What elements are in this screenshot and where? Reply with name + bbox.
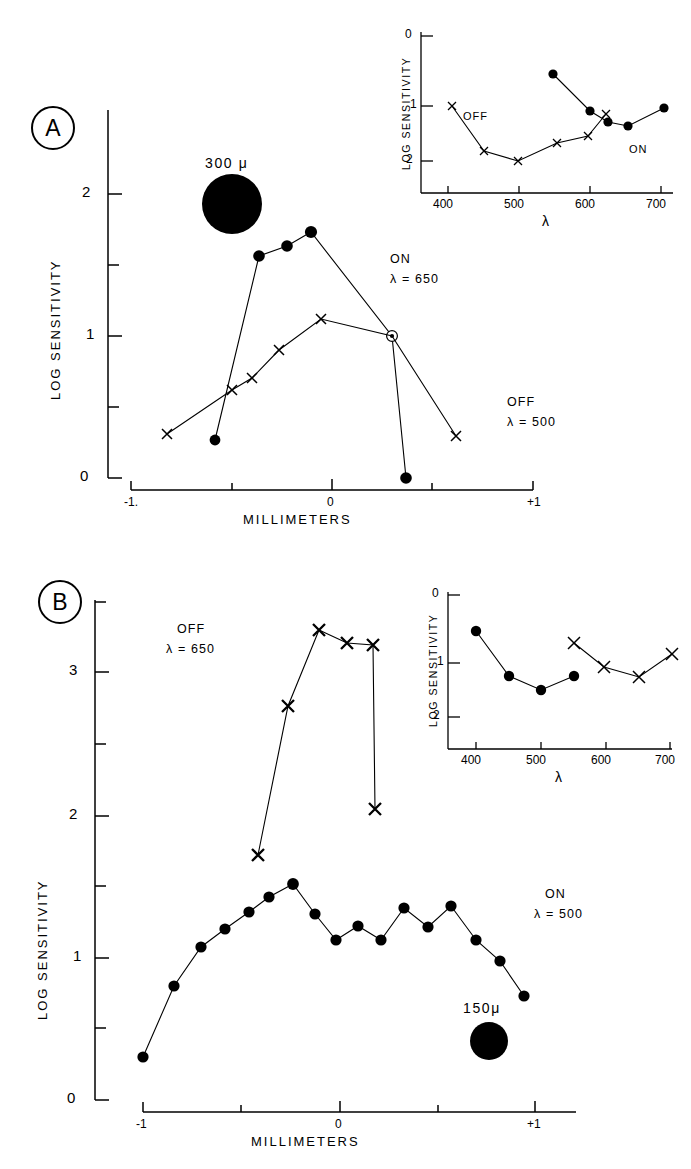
panel-a-inset-xlabel: λ (542, 213, 550, 229)
panel-a-inset-xtick-600: 600 (575, 197, 595, 211)
panel-a-off-label-line2: λ = 500 (507, 415, 556, 429)
panel-b-off-label-line1: OFF (177, 622, 205, 636)
series-on-a-inset (548, 69, 668, 130)
panel-b-xtick-0: 0 (335, 1117, 342, 1131)
panel-b-xtick-pos1: +1 (527, 1117, 541, 1131)
panel-b-inset-xlabel: λ (555, 769, 563, 785)
panel-badge-a: A (31, 106, 75, 150)
panel-a-axes (108, 110, 533, 490)
panel-b-ytick-3: 3 (69, 661, 77, 678)
spot-size-blob-a (202, 174, 262, 234)
figure-root: A 0 1 2 LOG SENSITIVITY -1. 0 +1 MILLIME… (0, 0, 691, 1169)
panel-b-ylabel: LOG SENSITIVITY (35, 879, 50, 1020)
panel-b-inset-xtick-700: 700 (655, 753, 675, 767)
panel-b-xlabel: MILLIMETERS (251, 1134, 360, 1149)
panel-b-on-label-line1: ON (545, 887, 566, 901)
panel-a-inset-xtick-500: 500 (504, 197, 524, 211)
series-x-b-inset (568, 637, 678, 683)
spot-size-blob-b (470, 1022, 508, 1060)
panel-a-inset-on-label: ON (629, 143, 648, 155)
panel-b-inset-axes (448, 592, 672, 749)
panel-b-ytick-2: 2 (69, 805, 77, 822)
panel-a-spot-label: 300 μ (205, 155, 248, 171)
panel-a-on-label-line2: λ = 650 (390, 272, 439, 286)
series-filled-b-inset (471, 626, 579, 695)
panel-a-xlabel: MILLIMETERS (243, 512, 352, 527)
panel-a-xtick-neg1: -1. (124, 495, 138, 509)
panel-a-inset-ylabel: LOG SENSITIVITY (400, 57, 412, 170)
panel-b-spot-label: 150μ (463, 1000, 501, 1016)
panel-a-inset-xtick-400: 400 (433, 197, 453, 211)
panel-a-ytick-0: 0 (80, 467, 88, 484)
panel-a-off-label-line1: OFF (507, 395, 535, 409)
series-on-b (137, 878, 529, 1063)
panel-a-ytick-1: 1 (86, 325, 94, 342)
series-off-a (162, 314, 461, 441)
panel-b-ytick-0: 0 (67, 1089, 75, 1106)
panel-a-xtick-0: 0 (327, 495, 334, 509)
panel-a-inset-axes (421, 32, 673, 193)
panel-b-off-label-line2: λ = 650 (166, 642, 215, 656)
panel-b-inset-ylabel: LOG SENSITIVITY (427, 614, 439, 727)
panel-a-on-label-line1: ON (390, 252, 411, 266)
panel-b-ytick-1: 1 (73, 947, 81, 964)
figure-canvas (0, 0, 691, 1169)
panel-b-xtick-neg1: -1 (136, 1117, 147, 1131)
panel-a-xtick-pos1: +1 (527, 495, 541, 509)
series-off-b (252, 624, 381, 861)
panel-b-inset-xtick-600: 600 (591, 753, 611, 767)
panel-b-inset-xtick-500: 500 (526, 753, 546, 767)
panel-a-inset-off-label: OFF (463, 110, 488, 122)
panel-b-inset-xtick-400: 400 (461, 753, 481, 767)
panel-badge-b: B (38, 580, 82, 624)
panel-b-on-label-line2: λ = 500 (534, 907, 583, 921)
panel-a-ylabel: LOG SENSITIVITY (48, 259, 63, 400)
panel-a-inset-xtick-700: 700 (646, 197, 666, 211)
panel-a-inset-ytick-0: 0 (405, 27, 412, 41)
panel-a-ytick-2: 2 (82, 183, 90, 200)
panel-b-inset-ytick-0: 0 (432, 586, 439, 600)
series-on-a (210, 226, 412, 484)
